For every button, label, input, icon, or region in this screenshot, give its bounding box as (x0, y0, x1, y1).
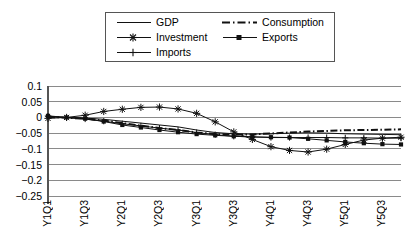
y-tick-label: 0 (36, 112, 42, 122)
legend-swatch-square-icon (221, 31, 259, 44)
x-tick-label: Y4Q3 (302, 200, 313, 227)
legend-row: GDP Consumption (106, 16, 334, 31)
legend-label-exports: Exports (259, 31, 298, 44)
legend-row: Investment Exports (106, 31, 334, 46)
y-tick-label: −0.05 (15, 128, 42, 138)
legend-label-imports: Imports (153, 46, 191, 59)
x-tick-label: Y3Q1 (191, 200, 202, 227)
legend-item-exports: Exports (217, 31, 334, 44)
x-tick-label: Y5Q3 (376, 200, 387, 227)
x-tick-label: Y1Q3 (79, 200, 90, 227)
x-tick-label: Y2Q1 (116, 200, 127, 227)
x-tick-label: Y2Q3 (153, 200, 164, 227)
legend-swatch-dashdot-icon (221, 16, 259, 29)
chart-plot-area: 0.10.050−0.05−0.1−0.15−0.2−0.25 (0, 78, 413, 204)
chart-canvas (0, 78, 413, 204)
y-tick-label: 0.1 (27, 81, 42, 91)
legend-swatch-plus-icon (115, 46, 153, 59)
chart-legend: GDP Consumption Investment (105, 12, 335, 62)
legend-item-gdp: GDP (106, 16, 217, 29)
legend-row: Imports (106, 46, 334, 61)
y-tick-label: −0.2 (21, 175, 42, 185)
x-tick-label: Y1Q1 (42, 200, 53, 227)
x-tick-label: Y3Q3 (228, 200, 239, 227)
legend-swatch-solid-icon (115, 16, 153, 29)
legend-item-investment: Investment (106, 31, 217, 44)
legend-label-investment: Investment (153, 31, 207, 44)
y-tick-label: −0.1 (21, 144, 42, 154)
y-axis-labels: 0.10.050−0.05−0.1−0.15−0.2−0.25 (0, 78, 46, 204)
legend-item-imports: Imports (106, 46, 217, 59)
y-tick-label: −0.15 (15, 160, 42, 170)
x-axis-labels: Y1Q1Y1Q3Y2Q1Y2Q3Y3Q1Y3Q3Y4Q1Y4Q3Y5Q1Y5Q3 (0, 198, 413, 242)
x-tick-label: Y4Q1 (265, 200, 276, 227)
y-tick-label: 0.05 (22, 97, 42, 107)
series-line-gdp (48, 116, 401, 134)
x-tick-label: Y5Q1 (339, 200, 350, 227)
legend-swatch-asterisk-icon (115, 31, 153, 44)
legend-item-consumption: Consumption (217, 16, 334, 29)
legend-label-gdp: GDP (153, 16, 179, 29)
legend-label-consumption: Consumption (259, 16, 324, 29)
